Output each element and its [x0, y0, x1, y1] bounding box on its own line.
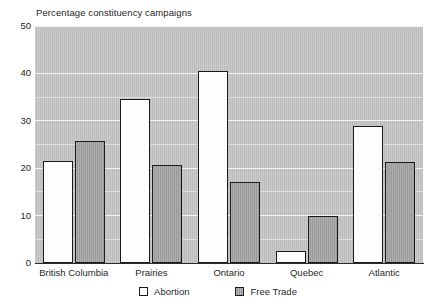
y-tick-label-0: 0 [26, 258, 31, 268]
bar [308, 216, 338, 263]
chart-title: Percentage constituency campaigns [36, 7, 192, 19]
bar-chart-figure: Percentage constituency campaigns 010203… [0, 0, 436, 308]
bar-group [120, 26, 182, 263]
legend-label: Free Trade [250, 286, 296, 297]
legend-item: Free Trade [235, 286, 296, 297]
bar [385, 162, 415, 263]
chart-legend: AbortionFree Trade [0, 286, 436, 297]
hollow-square-icon [139, 287, 148, 296]
y-tick-label-40: 40 [20, 68, 31, 78]
bar-group [276, 26, 338, 263]
bar [276, 251, 306, 263]
legend-label: Abortion [154, 286, 189, 297]
x-tick-label: Atlantic [369, 266, 400, 279]
legend-item: Abortion [139, 286, 189, 297]
bar [230, 182, 260, 263]
bar-group [353, 26, 415, 263]
y-axis: 01020304050 [6, 0, 31, 308]
y-tick-label-10: 10 [20, 211, 31, 221]
bar [120, 99, 150, 263]
y-tick-label-50: 50 [20, 21, 31, 31]
bar [152, 165, 182, 263]
bar [198, 71, 228, 263]
x-tick-label: British Columbia [39, 266, 108, 279]
x-tick-label: Ontario [213, 266, 244, 279]
bar [75, 141, 105, 263]
x-tick-label: Quebec [290, 266, 323, 279]
bar [353, 126, 383, 263]
bar-group [198, 26, 260, 263]
x-axis-labels: British ColumbiaPrairiesOntarioQuebecAtl… [35, 266, 423, 282]
filled-square-icon [235, 287, 244, 296]
bar-group [43, 26, 105, 263]
y-tick-label-20: 20 [20, 163, 31, 173]
x-tick-label: Prairies [135, 266, 167, 279]
x-axis-line [35, 263, 424, 264]
y-tick-label-30: 30 [20, 116, 31, 126]
plot-area [35, 26, 423, 263]
bar [43, 161, 73, 263]
